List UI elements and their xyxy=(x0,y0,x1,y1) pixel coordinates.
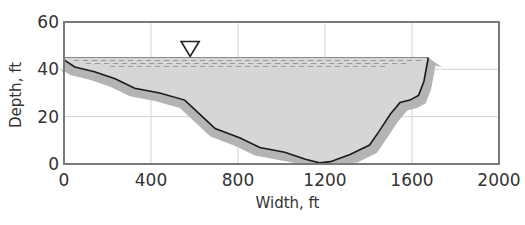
y-tick-label: 20 xyxy=(37,107,59,127)
x-tick-label: 2000 xyxy=(477,170,520,190)
water-surface-marker-icon xyxy=(181,42,199,57)
y-axis-ticks: 0204060 xyxy=(37,12,59,174)
x-tick-label: 1200 xyxy=(303,170,346,190)
y-tick-label: 40 xyxy=(37,59,59,79)
y-tick-label: 60 xyxy=(37,12,59,32)
x-tick-label: 800 xyxy=(222,170,254,190)
x-tick-label: 400 xyxy=(135,170,167,190)
y-axis-title: Depth, ft xyxy=(7,62,25,128)
channel-cross-section-chart: 0400800120016002000 0204060 Width, ft De… xyxy=(0,0,525,225)
x-tick-label: 1600 xyxy=(390,170,433,190)
x-axis-title: Width, ft xyxy=(255,194,319,212)
x-tick-label: 0 xyxy=(59,170,70,190)
x-axis-ticks: 0400800120016002000 xyxy=(59,170,521,190)
y-tick-label: 0 xyxy=(48,154,59,174)
